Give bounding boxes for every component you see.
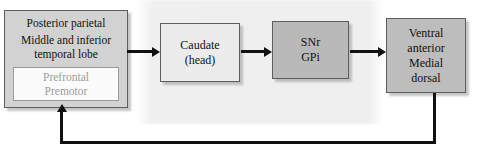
arrow-feedback-to-cortex-icon [60,112,63,142]
node-caudate-head[interactable]: Caudate (head) [160,23,240,82]
diagram-canvas: Posterior parietal Middle and inferior t… [0,0,484,151]
thalamus-line-2: anterior [407,41,444,56]
snr-line-1: SNr [301,35,320,50]
cortex-line-1: Posterior parietal [5,16,127,30]
node-snr-gpi[interactable]: SNr GPi [272,21,349,79]
cortex-line-2: Middle and inferior [5,33,127,47]
arrow-cortex-to-caudate-icon [127,50,153,53]
thalamus-line-1: Ventral [409,26,444,41]
inner-line-2: Premotor [45,84,88,98]
snr-line-2: GPi [301,50,320,65]
thalamus-line-3: Medial [409,56,443,71]
arrow-snr-to-thalamus-icon [350,50,379,53]
node-cortex-association-areas[interactable]: Posterior parietal Middle and inferior t… [4,10,128,108]
feedback-line-vertical-right [433,93,436,144]
cortex-line-3: temporal lobe [5,47,127,61]
caudate-line-1: Caudate [180,38,219,53]
thalamus-line-4: dorsal [411,71,440,86]
node-prefrontal-premotor[interactable]: Prefrontal Premotor [13,67,119,101]
feedback-line-horizontal-bottom [60,141,436,144]
inner-line-1: Prefrontal [43,70,89,84]
caudate-line-2: (head) [185,53,216,68]
node-thalamic-nuclei[interactable]: Ventral anterior Medial dorsal [386,18,466,93]
arrow-caudate-to-snr-icon [241,50,265,53]
